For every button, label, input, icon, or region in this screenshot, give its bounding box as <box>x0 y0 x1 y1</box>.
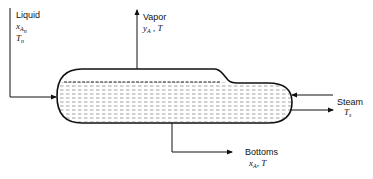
steam-t-sub: s <box>349 112 351 118</box>
vapor-label: Vapor <box>143 12 166 22</box>
bottoms-t-symbol: T <box>261 158 266 168</box>
liquid-label: Liquid <box>16 10 40 20</box>
bottoms-arrow <box>172 123 232 152</box>
liquid-t-sub: n <box>21 38 24 44</box>
bottoms-stream <box>172 123 232 152</box>
vapor-vars: yA , T <box>143 23 162 34</box>
steam-stream <box>291 95 333 110</box>
liquid-region <box>58 82 292 122</box>
vapor-t-symbol: T <box>157 23 162 33</box>
diagram-canvas <box>0 0 373 179</box>
steam-temperature: Ts <box>344 107 351 118</box>
evaporator-vessel <box>53 69 292 123</box>
bottoms-label: Bottoms <box>245 147 278 157</box>
steam-label: Steam <box>337 97 363 107</box>
liquid-x-subsub: n <box>24 28 27 34</box>
bottoms-vars: xA, T <box>249 158 266 169</box>
liquid-temperature: Tn <box>16 33 24 44</box>
